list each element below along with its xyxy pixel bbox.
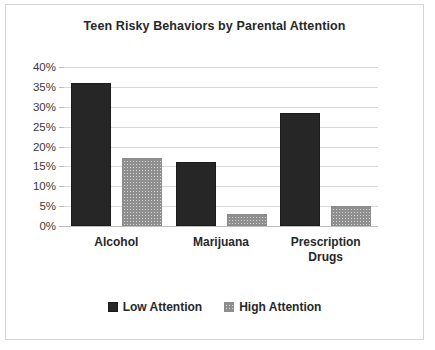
bar	[122, 158, 162, 226]
bar	[280, 113, 320, 226]
gridline-0%	[64, 226, 378, 227]
y-axis-label-25%: 25%	[33, 121, 56, 133]
legend-label: Low Attention	[123, 300, 203, 314]
bars-container	[64, 67, 378, 226]
bar	[227, 214, 267, 226]
y-tick-mark	[59, 226, 64, 227]
y-axis-label-20%: 20%	[33, 141, 56, 153]
bar-group	[280, 67, 371, 226]
bar	[71, 83, 111, 226]
y-axis-label-15%: 15%	[33, 160, 56, 172]
legend-swatch-icon	[108, 302, 118, 312]
category-label: Alcohol	[64, 235, 169, 250]
plot-area: 0%5%10%15%20%25%30%35%40% AlcoholMarijua…	[64, 67, 378, 226]
legend-item[interactable]: Low Attention	[108, 300, 203, 314]
legend-label: High Attention	[239, 300, 321, 314]
chart-title: Teen Risky Behaviors by Parental Attenti…	[6, 19, 423, 33]
y-axis-label-35%: 35%	[33, 81, 56, 93]
category-label: Prescription Drugs	[273, 235, 378, 265]
bar	[331, 206, 371, 226]
bar-group	[176, 67, 267, 226]
legend-swatch-icon	[224, 302, 234, 312]
chart-frame: Teen Risky Behaviors by Parental Attenti…	[5, 4, 424, 340]
y-axis-label-0%: 0%	[39, 220, 56, 232]
y-axis-label-10%: 10%	[33, 180, 56, 192]
y-axis-label-30%: 30%	[33, 101, 56, 113]
y-axis-label-40%: 40%	[33, 61, 56, 73]
bar-group	[71, 67, 162, 226]
legend-item[interactable]: High Attention	[224, 300, 321, 314]
category-label: Marijuana	[169, 235, 274, 250]
bar	[176, 162, 216, 226]
legend: Low AttentionHigh Attention	[6, 300, 423, 314]
y-axis-label-5%: 5%	[39, 200, 56, 212]
